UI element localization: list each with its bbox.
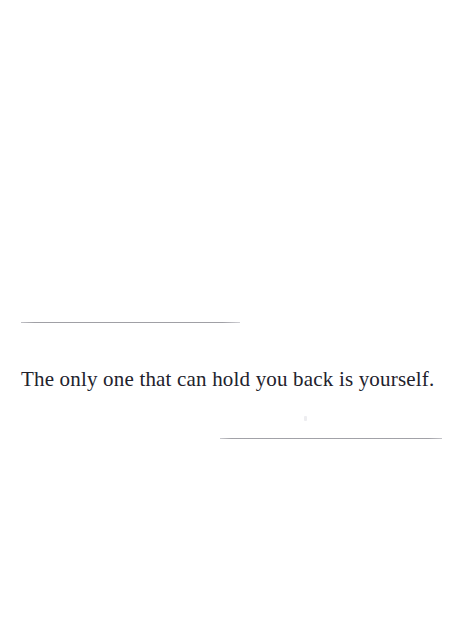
quote-page: The only one that can hold you back is y…	[0, 0, 460, 634]
bottom-divider-rule	[220, 438, 442, 439]
top-divider-rule	[21, 322, 240, 323]
scan-artifact-speck	[304, 416, 307, 421]
quote-text: The only one that can hold you back is y…	[21, 366, 441, 392]
